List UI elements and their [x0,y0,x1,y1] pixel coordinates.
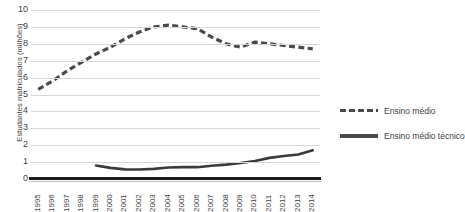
x-axis-tick-label: 2003 [148,194,157,212]
grid-line [31,10,320,11]
legend-item: Ensino médio técnico [340,129,461,143]
grid-line [31,145,320,146]
x-axis-tick-label: 2005 [177,194,186,212]
y-axis-tick-label: 4 [12,106,28,115]
x-axis-tick-label: 2001 [119,194,128,212]
x-axis-tick-label: 2000 [105,194,114,212]
x-axis-tick-label: 2004 [163,194,172,212]
x-axis-tick-label: 2008 [221,194,230,212]
y-axis-tick-label: 0 [12,174,28,183]
legend-swatch-solid [340,134,378,138]
x-axis-tick-label: 2002 [134,194,143,212]
plot-area [31,10,320,179]
x-axis-tick-label: 2007 [206,194,215,212]
legend-label: Ensino médio técnico [384,129,465,143]
x-axis-tick-label: 2006 [192,194,201,212]
x-axis-tick-label: 2013 [293,194,302,212]
x-axis-baseline-shadow [29,181,321,182]
grid-line [31,95,320,96]
x-axis-tick-label: 1995 [33,194,42,212]
x-axis-tick-labels: 1995199619971998199920002001200220032004… [31,183,320,212]
grid-line [31,61,320,62]
y-axis-tick-label: 3 [12,123,28,132]
y-axis-tick-label: 1 [12,157,28,166]
chart-legend: Ensino médioEnsino médio técnico [340,104,461,149]
series-line-2 [96,150,313,169]
legend-label: Ensino médio [384,104,436,118]
grid-line [31,27,320,28]
x-axis-tick-label: 1996 [47,194,56,212]
x-axis-tick-label: 1997 [62,194,71,212]
y-axis-tick-label: 10 [12,5,28,14]
legend-item: Ensino médio [340,104,461,118]
x-axis-tick-label: 1999 [91,194,100,212]
y-axis-tick-label: 8 [12,39,28,48]
grid-line [31,128,320,129]
x-axis-tick-label: 2014 [307,194,316,212]
y-axis-tick-label: 6 [12,73,28,82]
y-axis-tick-label: 9 [12,22,28,31]
grid-line [31,111,320,112]
x-axis-tick-label: 2012 [278,194,287,212]
x-axis-tick-label: 1998 [76,194,85,212]
x-axis-tick-label: 2011 [264,195,273,212]
legend-swatch-dashed [340,109,378,112]
x-axis-tick-label: 2010 [249,194,258,212]
y-axis-tick-label: 5 [12,90,28,99]
x-axis-baseline [29,177,321,180]
series-line-1 [38,25,313,89]
y-axis-tick-label: 7 [12,56,28,65]
x-axis-tick-label: 2009 [235,194,244,212]
grid-line [31,78,320,79]
y-axis-tick-label: 2 [12,140,28,149]
grid-line [31,44,320,45]
grid-line [31,162,320,163]
y-axis-tick-labels: 109876543210 [8,0,28,190]
